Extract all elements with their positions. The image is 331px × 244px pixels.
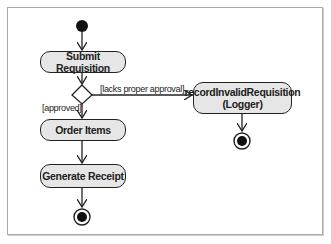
action-record-invalid-requisition: recordInvalidRequisition (Logger): [193, 82, 292, 114]
record-line2: (Logger): [222, 98, 262, 110]
action-order-items: Order Items: [40, 119, 126, 141]
initial-node-icon: [76, 20, 88, 32]
decision-node-icon: [72, 85, 92, 104]
guard-lacks-approval: [lacks proper approval]: [100, 84, 184, 94]
guard-approved: [approved]: [42, 103, 82, 113]
action-submit-requisition: Submit Requisition: [40, 51, 126, 73]
record-line1: recordInvalidRequisition: [185, 86, 301, 98]
action-generate-receipt: Generate Receipt: [40, 164, 126, 188]
